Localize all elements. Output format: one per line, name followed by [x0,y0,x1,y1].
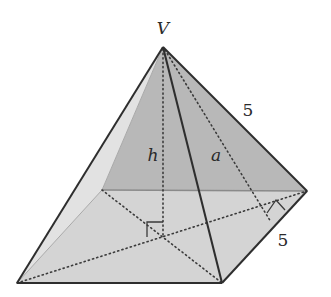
pyramid-diagram: V h a 5 5 [0,0,331,297]
back-base-edge [102,190,307,191]
height-label: h [148,145,159,165]
lateral-edge-label: 5 [243,100,254,120]
apex-label: V [157,18,171,38]
slant-height-label: a [211,145,221,165]
base-edge-label: 5 [278,230,289,250]
